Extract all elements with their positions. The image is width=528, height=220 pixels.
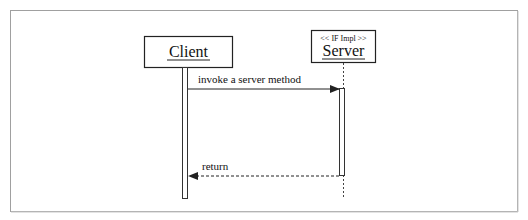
server-label: Server	[323, 42, 365, 59]
client-activation-bar[interactable]	[183, 68, 188, 199]
sequence-diagram: Client << IF Impl >> Server invoke a ser…	[0, 0, 528, 220]
diagram-frame	[11, 11, 518, 212]
server-activation-bar[interactable]	[340, 89, 345, 176]
client-label: Client	[169, 43, 209, 60]
invoke-label: invoke a server method	[198, 73, 301, 85]
return-label: return	[202, 160, 229, 172]
participant-server[interactable]: << IF Impl >> Server	[312, 31, 376, 63]
participant-client[interactable]: Client	[145, 37, 233, 68]
